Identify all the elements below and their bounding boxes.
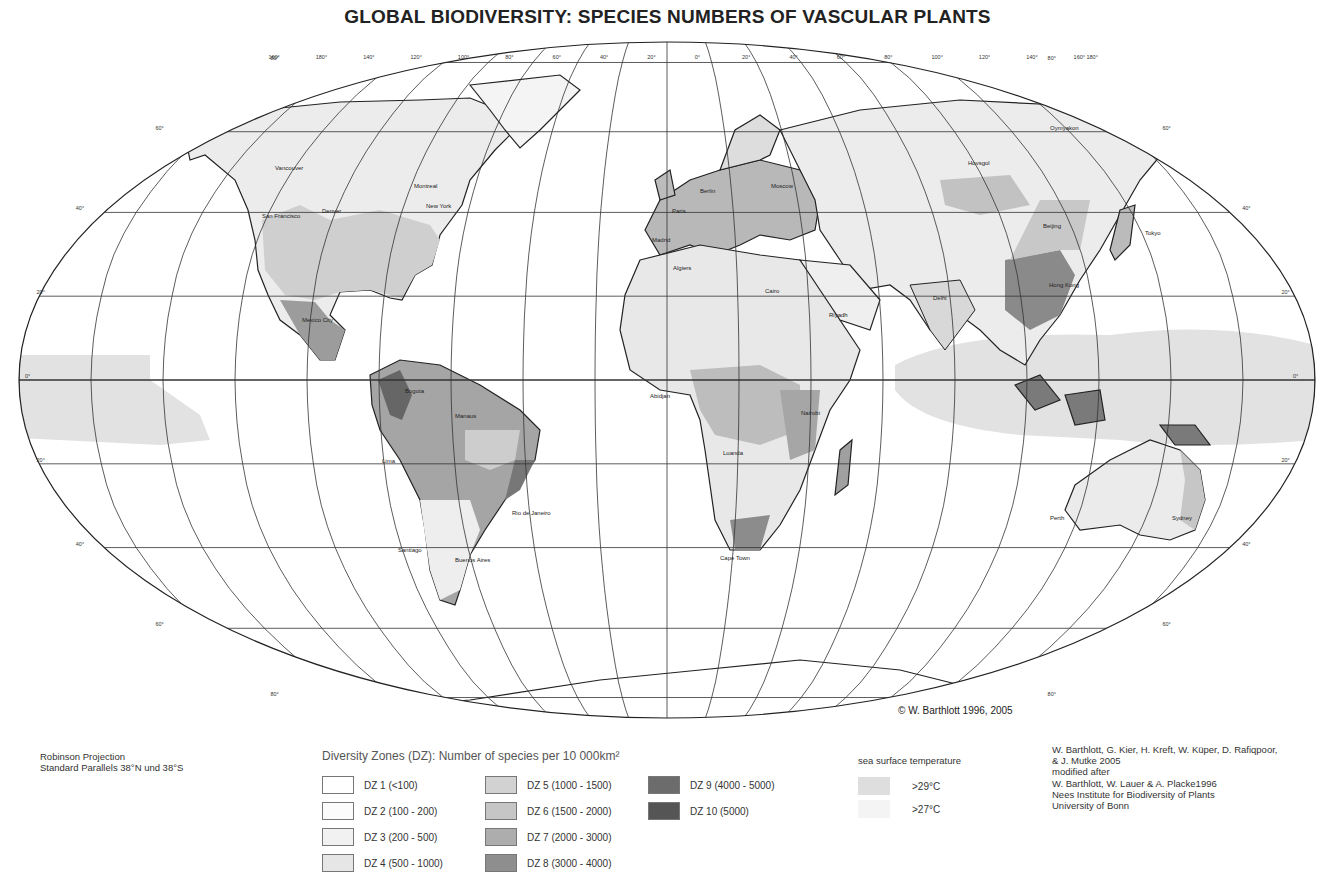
map-title: GLOBAL BIODIVERSITY: SPECIES NUMBERS OF … bbox=[0, 6, 1335, 28]
credit-line: W. Barthlott, G. Kier, H. Kreft, W. Küpe… bbox=[1052, 744, 1277, 755]
longitude-label: 120° bbox=[410, 54, 421, 60]
legend-item-dz6: DZ 6 (1500 - 2000) bbox=[485, 802, 612, 820]
city-label: Paris bbox=[672, 208, 686, 214]
sst-legend-item-29: >29°C bbox=[858, 777, 940, 795]
latitude-label: 60° bbox=[1162, 125, 1170, 131]
projection-note: Robinson Projection Standard Parallels 3… bbox=[40, 751, 183, 773]
legend-swatch bbox=[648, 802, 680, 820]
latitude-label: 20° bbox=[37, 457, 45, 463]
legend-label: DZ 7 (2000 - 3000) bbox=[527, 832, 612, 843]
latitude-label: 60° bbox=[156, 125, 164, 131]
city-label: Delhi bbox=[933, 295, 947, 301]
legend-item-dz7: DZ 7 (2000 - 3000) bbox=[485, 828, 612, 846]
legend-swatch bbox=[485, 802, 517, 820]
longitude-label: 80° bbox=[884, 54, 892, 60]
sst-legend-title: sea surface temperature bbox=[858, 755, 961, 766]
legend-swatch bbox=[322, 828, 354, 846]
sst-legend-item-27: >27°C bbox=[858, 800, 940, 818]
credit-line: University of Bonn bbox=[1052, 800, 1277, 811]
legend-item-dz8: DZ 8 (3000 - 4000) bbox=[485, 854, 612, 872]
city-label: Oymyakon bbox=[1050, 125, 1079, 131]
latitude-label: 20° bbox=[1281, 457, 1289, 463]
city-label: Sydney bbox=[1172, 515, 1192, 521]
city-label: Hovsgol bbox=[968, 160, 990, 166]
copyright-note: © W. Barthlott 1996, 2005 bbox=[898, 705, 1013, 716]
longitude-label: 180° bbox=[316, 54, 327, 60]
longitude-label: 100° bbox=[932, 54, 943, 60]
city-label: Beijing bbox=[1043, 223, 1061, 229]
latitude-label: 40° bbox=[1242, 541, 1250, 547]
legend-item-dz3: DZ 3 (200 - 500) bbox=[322, 828, 437, 846]
longitude-label: 60° bbox=[837, 54, 845, 60]
legend-label: DZ 5 (1000 - 1500) bbox=[527, 780, 612, 791]
credits: W. Barthlott, G. Kier, H. Kreft, W. Küpe… bbox=[1052, 744, 1277, 811]
city-label: Vancouver bbox=[275, 165, 303, 171]
legend-label: DZ 6 (1500 - 2000) bbox=[527, 806, 612, 817]
latitude-label: 60° bbox=[156, 621, 164, 627]
longitude-label: 60° bbox=[553, 54, 561, 60]
city-label: Tokyo bbox=[1145, 230, 1161, 236]
longitude-label: 20° bbox=[647, 54, 655, 60]
legend-item-dz4: DZ 4 (500 - 1000) bbox=[322, 854, 443, 872]
latitude-label: 80° bbox=[270, 55, 278, 61]
city-label: Berlin bbox=[700, 188, 715, 194]
sst-swatch bbox=[858, 777, 890, 795]
city-label: Santiago bbox=[398, 547, 422, 553]
legend-label: DZ 1 (<100) bbox=[364, 780, 418, 791]
city-label: Denver bbox=[322, 208, 341, 214]
legend-swatch bbox=[322, 776, 354, 794]
legend-label: DZ 3 (200 - 500) bbox=[364, 832, 437, 843]
city-label: New York bbox=[426, 203, 452, 209]
legend-label: DZ 9 (4000 - 5000) bbox=[690, 780, 775, 791]
latitude-label: 40° bbox=[1242, 205, 1250, 211]
latitude-label: 60° bbox=[1162, 621, 1170, 627]
city-label: Hong Kong bbox=[1049, 282, 1079, 288]
city-label: Montreal bbox=[414, 183, 437, 189]
city-label: Nairobi bbox=[801, 410, 820, 416]
sst-swatch bbox=[858, 800, 890, 818]
legend-item-dz9: DZ 9 (4000 - 5000) bbox=[648, 776, 775, 794]
legend-label: DZ 2 (100 - 200) bbox=[364, 806, 437, 817]
longitude-label: 80° bbox=[505, 54, 513, 60]
city-label: Luanda bbox=[723, 450, 744, 456]
longitude-label: 120° bbox=[979, 54, 990, 60]
city-label: Cairo bbox=[765, 288, 780, 294]
credit-line: & J. Mutke 2005 bbox=[1052, 755, 1277, 766]
city-label: Manaus bbox=[455, 413, 476, 419]
credit-line: Nees Institute for Biodiversity of Plant… bbox=[1052, 789, 1277, 800]
latitude-label: 0° bbox=[1293, 373, 1298, 379]
world-map: Vancouver San Francisco Denver Montreal … bbox=[0, 30, 1335, 730]
legend-label: DZ 10 (5000) bbox=[690, 806, 749, 817]
legend-swatch bbox=[485, 854, 517, 872]
longitude-label: 40° bbox=[789, 54, 797, 60]
credit-line: modified after bbox=[1052, 766, 1277, 777]
legend-label: DZ 8 (3000 - 4000) bbox=[527, 858, 612, 869]
latitude-label: 20° bbox=[37, 289, 45, 295]
city-label: Rio de Janeiro bbox=[512, 510, 551, 516]
legend-swatch bbox=[322, 854, 354, 872]
legend-label: DZ 4 (500 - 1000) bbox=[364, 858, 443, 869]
credit-line: W. Barthlott, W. Lauer & A. Placke1996 bbox=[1052, 778, 1277, 789]
latitude-label: 80° bbox=[270, 691, 278, 697]
city-label: Abidjan bbox=[650, 393, 670, 399]
city-label: Cape Town bbox=[720, 555, 750, 561]
legend-item-dz5: DZ 5 (1000 - 1500) bbox=[485, 776, 612, 794]
longitude-label: 100° bbox=[458, 54, 469, 60]
latitude-label: 40° bbox=[76, 541, 84, 547]
longitude-label: 40° bbox=[600, 54, 608, 60]
standard-parallels: Standard Parallels 38°N und 38°S bbox=[40, 762, 183, 773]
longitude-label: 20° bbox=[742, 54, 750, 60]
legend-swatch bbox=[485, 776, 517, 794]
legend-item-dz10: DZ 10 (5000) bbox=[648, 802, 749, 820]
legend-swatch bbox=[322, 802, 354, 820]
latitude-label: 80° bbox=[1048, 55, 1056, 61]
city-label: Mexico City bbox=[302, 317, 333, 323]
legend-item-dz1: DZ 1 (<100) bbox=[322, 776, 418, 794]
city-label: Moscow bbox=[771, 183, 794, 189]
legend-swatch bbox=[648, 776, 680, 794]
latitude-label: 40° bbox=[76, 205, 84, 211]
city-label: San Francisco bbox=[262, 213, 301, 219]
legend-swatch bbox=[485, 828, 517, 846]
city-label: Perth bbox=[1050, 515, 1064, 521]
city-label: Riyadh bbox=[829, 312, 848, 318]
